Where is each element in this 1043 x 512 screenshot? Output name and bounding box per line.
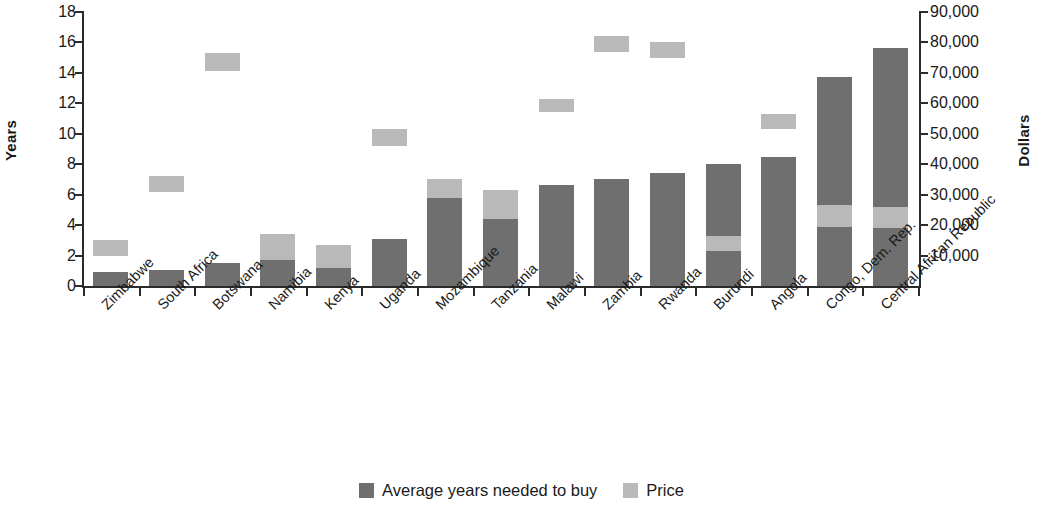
legend-item[interactable]: Average years needed to buy [359,482,597,499]
left-axis-tick-mark [75,285,82,287]
bar-segment-price [93,240,128,255]
bar-segment-price [260,234,295,260]
bar-segment-years [873,48,908,207]
left-axis-tick-mark [75,11,82,13]
x-axis-tick-mark [918,288,920,296]
bar-segment-price [650,42,685,58]
left-axis-tick-mark [75,133,82,135]
bar-segment-years [594,179,629,286]
y-axis-title-right: Dollars [1015,111,1032,171]
legend-swatch-icon [359,483,374,498]
right-axis-tick-label: 50,000 [930,126,979,142]
right-axis-tick-label: 30,000 [930,187,979,203]
x-axis-tick-mark [584,288,586,296]
legend-item[interactable]: Price [623,482,684,499]
x-axis-tick-mark [473,288,475,296]
left-axis-tick-mark [75,41,82,43]
x-axis-tick-mark [862,288,864,296]
bar-segment-price [205,53,240,71]
legend-label: Price [646,482,684,499]
x-axis-tick-mark [640,288,642,296]
x-axis-tick-mark [139,288,141,296]
bar-segment-price [761,114,796,129]
right-axis-tick-mark [921,11,928,13]
bar-segment-price [427,179,462,197]
x-axis-tick-mark [194,288,196,296]
right-axis-tick-mark [921,72,928,74]
x-axis-tick-mark [250,288,252,296]
left-axis-tick-mark [75,224,82,226]
chart-figure: Years Dollars 024681012141618 10,00020,0… [0,0,1043,512]
left-axis-tick-label: 10 [58,126,76,142]
bar-segment-price [483,190,518,219]
x-axis-tick-mark [306,288,308,296]
left-axis-tick-label: 12 [58,95,76,111]
right-axis-tick-mark [921,224,928,226]
right-axis-tick-label: 90,000 [930,4,979,20]
left-axis-tick-label: 2 [67,248,76,264]
left-axis-tick-mark [75,72,82,74]
y-axis-title-left: Years [2,111,19,171]
bar-segment-price [539,99,574,113]
x-axis-tick-mark [417,288,419,296]
right-axis-tick-mark [921,102,928,104]
x-axis-tick-mark [695,288,697,296]
bar-segment-years [761,157,796,286]
bar-segment-price [372,129,407,146]
bar-segment-years [539,185,574,286]
left-axis-tick-label: 0 [67,278,76,294]
bar-segment-price [149,176,184,191]
left-axis-tick-label: 16 [58,34,76,50]
left-axis-tick-mark [75,163,82,165]
legend-label: Average years needed to buy [382,482,597,499]
left-axis-tick-label: 18 [58,4,76,20]
right-axis-tick-mark [921,133,928,135]
right-axis-line [919,11,921,288]
left-axis-tick-label: 4 [67,217,76,233]
right-axis-tick-mark [921,41,928,43]
right-axis-tick-mark [921,194,928,196]
left-axis-tick-mark [75,102,82,104]
x-axis-tick-mark [807,288,809,296]
right-axis-tick-label: 70,000 [930,65,979,81]
left-axis-tick-label: 14 [58,65,76,81]
bar-segment-price [817,205,852,227]
right-axis-tick-label: 40,000 [930,156,979,172]
left-axis-tick-mark [75,255,82,257]
right-axis-tick-label: 60,000 [930,95,979,111]
left-axis-tick-label: 8 [67,156,76,172]
x-axis-tick-mark [361,288,363,296]
chart-legend: Average years needed to buyPrice [0,482,1043,499]
bar-segment-price [706,236,741,251]
bar-segment-price [316,245,351,268]
left-axis-tick-label: 6 [67,187,76,203]
x-axis-tick-mark [83,288,85,296]
x-axis-tick-mark [751,288,753,296]
bar-segment-price [594,36,629,51]
right-axis-tick-label: 80,000 [930,34,979,50]
left-axis-tick-mark [75,194,82,196]
bar-segment-years [427,198,462,286]
bar-segment-years [650,173,685,286]
x-axis-tick-mark [528,288,530,296]
right-axis-tick-mark [921,163,928,165]
bar-segment-years [706,164,741,236]
bar-segment-years [817,77,852,205]
legend-swatch-icon [623,483,638,498]
